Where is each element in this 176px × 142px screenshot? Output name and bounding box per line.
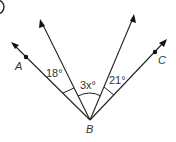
angle-diagram: A C B 18° 3x° 21°	[0, 0, 176, 142]
ray-right-inner	[90, 14, 136, 120]
label-a: A	[14, 60, 22, 72]
arrowhead-icon	[11, 42, 19, 49]
point-c	[153, 50, 157, 54]
problem-number-badge	[0, 0, 4, 14]
label-b: B	[86, 123, 93, 135]
angle-label-middle: 3x°	[80, 79, 96, 91]
label-c: C	[158, 54, 166, 66]
angle-label-right: 21°	[109, 74, 126, 86]
angle-arc-middle	[78, 93, 101, 96]
angle-arc-right	[104, 87, 114, 95]
angle-label-left: 18°	[46, 67, 63, 79]
point-a	[24, 55, 28, 59]
angle-arc-left	[63, 88, 74, 93]
ray-ba	[11, 42, 90, 120]
